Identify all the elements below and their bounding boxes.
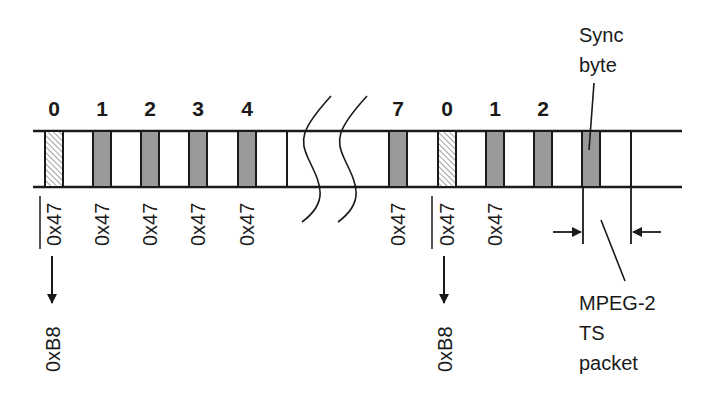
- sync-value-label: 0x47: [91, 203, 113, 246]
- packet-index: 0: [441, 97, 453, 120]
- sync-value-label: 0x47: [236, 203, 258, 246]
- inverted-sync-byte-cell: [438, 131, 456, 187]
- sync-byte-label-line2: byte: [579, 54, 617, 76]
- inverted-value-label: 0xB8: [42, 326, 64, 372]
- sync-byte-label-line1: Sync: [579, 24, 623, 46]
- packet-label-line2: TS: [579, 322, 605, 344]
- sync-values: 0x47 0x47 0x47 0x47 0x47 0x47 0x47 0x47: [40, 196, 506, 249]
- sync-value-label: 0x47: [187, 203, 209, 246]
- packets-right: [389, 131, 631, 187]
- inverted-value-label: 0xB8: [434, 326, 456, 372]
- sync-value-label: 0x47: [43, 203, 65, 246]
- inversion-arrows: 0xB8 0xB8: [42, 256, 456, 372]
- packet-index: 3: [192, 97, 204, 120]
- sync-byte-cell: [141, 131, 159, 187]
- packet-leader-line: [601, 220, 625, 281]
- sync-byte-cell: [389, 131, 407, 187]
- packet-index: 1: [489, 97, 501, 120]
- inverted-sync-byte-cell: [45, 131, 63, 187]
- packet-index: 0: [48, 97, 60, 120]
- wavy-break-icon: [302, 96, 367, 222]
- sync-byte-cell: [93, 131, 111, 187]
- sync-byte-cell: [534, 131, 552, 187]
- sync-byte-cell: [582, 131, 600, 187]
- packet-label-line3: packet: [579, 352, 638, 374]
- sync-byte-cell: [486, 131, 504, 187]
- packet-index: 2: [144, 97, 156, 120]
- packet-index: 1: [96, 97, 108, 120]
- packet-length-dimension: MPEG-2 TS packet: [553, 187, 661, 374]
- sync-value-label: 0x47: [387, 203, 409, 246]
- sync-byte-diagram: 0 1 2 3 4 7 0 1 2 0x47 0x47 0x47 0x47 0x…: [0, 0, 705, 397]
- sync-value-label: 0x47: [436, 203, 458, 246]
- packet-indices: 0 1 2 3 4 7 0 1 2: [48, 97, 549, 120]
- packet-index: 4: [241, 97, 253, 120]
- sync-byte-cell: [189, 131, 207, 187]
- sync-byte-cell: [238, 131, 256, 187]
- packet-label-line1: MPEG-2: [579, 292, 656, 314]
- packet-index: 7: [392, 97, 404, 120]
- packet-index: 2: [537, 97, 549, 120]
- sync-value-label: 0x47: [139, 203, 161, 246]
- packets-left: [45, 131, 287, 187]
- sync-value-label: 0x47: [484, 203, 506, 246]
